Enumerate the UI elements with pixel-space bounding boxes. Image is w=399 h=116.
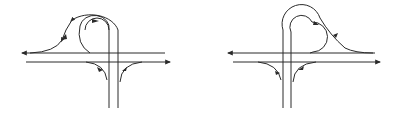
interchange-diagram: [0, 0, 399, 116]
left-loop-arrow: [92, 19, 99, 23]
right-crossroad-outer: [282, 5, 373, 108]
right-loop-ramp: [310, 22, 328, 53]
left-lower-ramp-out: [120, 62, 142, 82]
left-lower-ramp-in: [86, 62, 107, 80]
right-lower-ramp-in: [258, 62, 281, 80]
right-interchange: [228, 5, 380, 108]
right-lower-ramp-out: [293, 62, 316, 82]
left-crossroad-inner: [85, 18, 109, 108]
left-interchange: [22, 15, 170, 108]
